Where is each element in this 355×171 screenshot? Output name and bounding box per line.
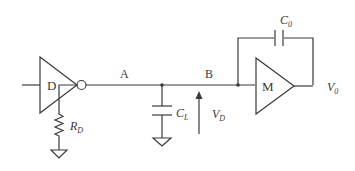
ground-icon-rd <box>51 150 67 158</box>
inversion-bubble-icon <box>77 81 86 90</box>
voltage-vd-label: VD <box>212 107 225 123</box>
receiver-label: M <box>262 79 274 94</box>
node-a-label: A <box>120 67 129 81</box>
capacitor-c0-label: C0 <box>280 13 292 29</box>
driver-label: D <box>47 78 56 93</box>
resistor-rd-icon <box>55 110 63 150</box>
feedback-wire-right <box>284 38 313 85</box>
capacitor-cl-label: CL <box>176 106 189 122</box>
circuit-diagram: D RD A CL VD B C0 M V0 <box>0 0 355 171</box>
node-b-label: B <box>205 67 213 81</box>
driver-resistor-tap <box>59 85 77 110</box>
resistor-rd-label: RD <box>69 119 83 135</box>
vd-arrow-head-icon <box>196 91 203 99</box>
ground-icon-cl <box>153 138 171 146</box>
voltage-v0-label: V0 <box>327 80 338 96</box>
